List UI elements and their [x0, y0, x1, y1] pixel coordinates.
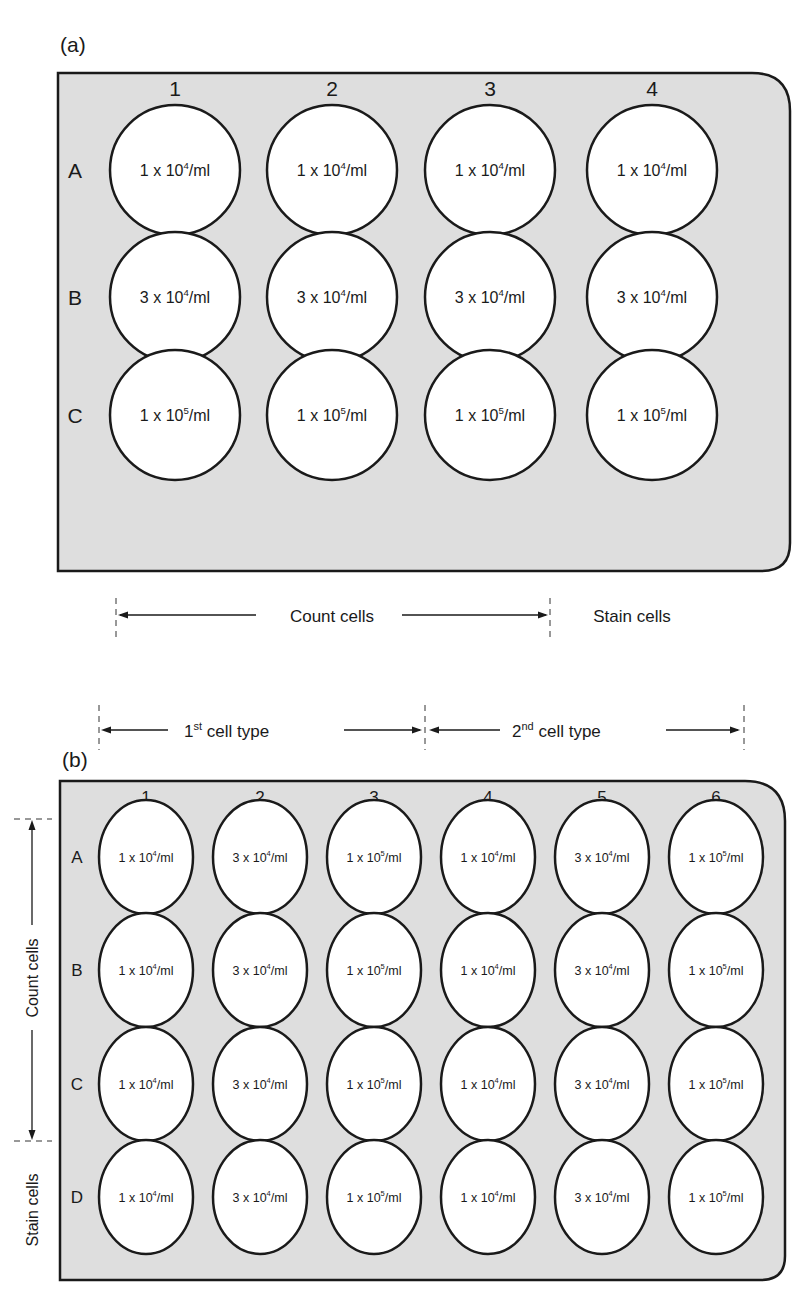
well-D2: 3 x 104/ml [213, 1140, 307, 1254]
well-concentration: 1 x 104/ml [461, 1076, 516, 1092]
well-concentration: 1 x 104/ml [119, 962, 174, 978]
well-concentration: 1 x 104/ml [461, 849, 516, 865]
well-A3: 1 x 105/ml [327, 800, 421, 914]
well-A2: 1 x 104/ml [267, 105, 397, 235]
well-A5: 3 x 104/ml [555, 800, 649, 914]
well-D5: 3 x 104/ml [555, 1140, 649, 1254]
well-C4: 1 x 104/ml [441, 1027, 535, 1141]
well-concentration: 1 x 104/ml [455, 160, 525, 179]
well-B3: 3 x 104/ml [425, 232, 555, 362]
well-concentration: 1 x 105/ml [689, 849, 744, 865]
well-concentration: 3 x 104/ml [455, 287, 525, 306]
well-concentration: 1 x 105/ml [347, 1189, 402, 1205]
well-D1: 1 x 104/ml [99, 1140, 193, 1254]
well-concentration: 1 x 105/ml [689, 1076, 744, 1092]
well-concentration: 3 x 104/ml [233, 1076, 288, 1092]
well-B5: 3 x 104/ml [555, 913, 649, 1027]
well-C6: 1 x 105/ml [669, 1027, 763, 1141]
row-label: C [67, 404, 82, 427]
well-concentration: 1 x 104/ml [297, 160, 367, 179]
well-B2: 3 x 104/ml [267, 232, 397, 362]
well-concentration: 3 x 104/ml [575, 1189, 630, 1205]
well-concentration: 3 x 104/ml [617, 287, 687, 306]
row-label: A [68, 159, 82, 182]
well-concentration: 3 x 104/ml [575, 962, 630, 978]
well-concentration: 3 x 104/ml [233, 1189, 288, 1205]
arrowhead-right-icon [412, 727, 422, 734]
annotation-count-stain-b: Count cells Stain cells [14, 819, 52, 1246]
column-header: 2 [326, 77, 338, 100]
well-plate-diagram: (a) 1234 ABC 1 x 104/ml1 x 104/ml1 x 104… [0, 0, 809, 1307]
row-label: B [71, 961, 82, 980]
well-concentration: 3 x 104/ml [575, 1076, 630, 1092]
first-cell-type-label: 1st cell type [184, 720, 269, 741]
stain-cells-label-b: Stain cells [24, 1174, 41, 1247]
well-concentration: 3 x 104/ml [233, 962, 288, 978]
well-C5: 3 x 104/ml [555, 1027, 649, 1141]
well-concentration: 1 x 105/ml [689, 962, 744, 978]
well-C1: 1 x 104/ml [99, 1027, 193, 1141]
panel-a-label: (a) [60, 33, 86, 56]
well-concentration: 1 x 104/ml [119, 1189, 174, 1205]
well-C2: 3 x 104/ml [213, 1027, 307, 1141]
row-label: D [71, 1188, 83, 1207]
well-C3: 1 x 105/ml [327, 1027, 421, 1141]
well-concentration: 1 x 105/ml [297, 405, 367, 424]
well-D6: 1 x 105/ml [669, 1140, 763, 1254]
well-concentration: 1 x 104/ml [461, 962, 516, 978]
well-concentration: 1 x 104/ml [119, 1076, 174, 1092]
annotation-cell-types-b: 1st cell type 2nd cell type [99, 705, 744, 750]
well-A1: 1 x 104/ml [110, 105, 240, 235]
column-header: 1 [169, 77, 181, 100]
arrowhead-left-icon [429, 727, 439, 734]
well-concentration: 3 x 104/ml [575, 849, 630, 865]
second-cell-type-label: 2nd cell type [512, 720, 601, 741]
well-concentration: 1 x 104/ml [119, 849, 174, 865]
well-concentration: 3 x 104/ml [233, 849, 288, 865]
row-label: A [71, 848, 83, 867]
well-concentration: 3 x 104/ml [297, 287, 367, 306]
column-header: 4 [646, 77, 658, 100]
arrowhead-up-icon [29, 820, 36, 830]
well-B6: 1 x 105/ml [669, 913, 763, 1027]
row-label: C [71, 1075, 83, 1094]
well-concentration: 1 x 104/ml [617, 160, 687, 179]
well-B4: 3 x 104/ml [587, 232, 717, 362]
arrowhead-left-icon [118, 612, 128, 619]
well-B4: 1 x 104/ml [441, 913, 535, 1027]
well-A6: 1 x 105/ml [669, 800, 763, 914]
well-C3: 1 x 105/ml [425, 350, 555, 480]
well-concentration: 1 x 105/ml [689, 1189, 744, 1205]
well-B1: 1 x 104/ml [99, 913, 193, 1027]
well-concentration: 1 x 105/ml [617, 405, 687, 424]
row-label: B [68, 286, 82, 309]
well-B3: 1 x 105/ml [327, 913, 421, 1027]
well-D3: 1 x 105/ml [327, 1140, 421, 1254]
column-header: 3 [484, 77, 496, 100]
arrowhead-down-icon [29, 1130, 36, 1140]
well-A3: 1 x 104/ml [425, 105, 555, 235]
well-B2: 3 x 104/ml [213, 913, 307, 1027]
arrowhead-right-icon [730, 727, 740, 734]
count-cells-label-b: Count cells [24, 938, 41, 1017]
well-A2: 3 x 104/ml [213, 800, 307, 914]
count-cells-label-a: Count cells [290, 607, 374, 626]
panel-b-label: (b) [62, 748, 88, 771]
arrowhead-left-icon [101, 727, 111, 734]
stain-cells-label-a: Stain cells [593, 607, 670, 626]
well-A4: 1 x 104/ml [587, 105, 717, 235]
well-concentration: 1 x 104/ml [140, 160, 210, 179]
annotation-count-stain-a: Count cells Stain cells [116, 598, 671, 638]
well-concentration: 1 x 105/ml [455, 405, 525, 424]
well-concentration: 1 x 104/ml [461, 1189, 516, 1205]
well-concentration: 1 x 105/ml [140, 405, 210, 424]
well-concentration: 3 x 104/ml [140, 287, 210, 306]
well-C2: 1 x 105/ml [267, 350, 397, 480]
well-A4: 1 x 104/ml [441, 800, 535, 914]
well-C1: 1 x 105/ml [110, 350, 240, 480]
well-D4: 1 x 104/ml [441, 1140, 535, 1254]
well-concentration: 1 x 105/ml [347, 962, 402, 978]
well-concentration: 1 x 105/ml [347, 1076, 402, 1092]
well-A1: 1 x 104/ml [99, 800, 193, 914]
arrowhead-right-icon [538, 612, 548, 619]
